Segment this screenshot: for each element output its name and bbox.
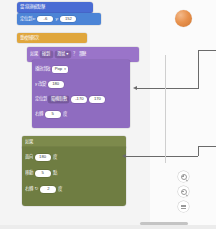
callout-line-lower-horizontal [126,156,198,157]
random-max-input[interactable]: 170 [89,96,105,103]
block-turn-right-second[interactable]: 右轉 ↻ 2 度 [22,185,126,194]
point-direction-label: 面向 [25,155,33,159]
hat-label: 當 綠旗 被點擊 [20,5,45,9]
turn-right-label: 右轉 [35,112,43,116]
zoom-in-icon [181,174,187,180]
callout-line-lower-top [198,146,216,147]
block-sound-play[interactable]: 播放音效 Pop ▾ [32,65,130,74]
callout-arrow-upper [133,86,137,90]
chevron-down-icon: ▾ [64,68,66,71]
zoom-out-icon [181,189,187,195]
block-stack-motion-second[interactable]: 面向 180 度 移動 5 點 右轉 ↻ 2 度 [22,147,126,206]
change-y-label: y 改變 [35,82,46,86]
callout-arrow-lower [122,154,126,158]
block-move-steps[interactable]: 移動 5 點 [22,169,126,178]
turn-right2-suffix: 度 [58,187,62,191]
goto-label: 定位到 x: [20,17,35,21]
green-if-label: 如果 [25,140,33,144]
goto-x-input[interactable]: -6 [37,16,53,23]
goto-random-label: 定位到 [35,97,46,101]
block-goto-random[interactable]: 定位到 隨機取數 -170 170 [32,95,130,104]
zoom-out-button[interactable] [178,186,189,197]
editor-root: 當 綠旗 被點擊 定位到 x: -6 y: 152 重複無限次 如果 碰到 滑鼠… [0,0,216,229]
repeat-label-text: 重複無限次 [20,36,39,40]
if-question-label: ？ [73,52,77,56]
turn-right-suffix: 度 [63,112,67,116]
block-motion-goto-xy[interactable]: 定位到 x: -6 y: 152 [17,13,101,25]
zoom-reset-button[interactable] [178,201,189,212]
right-panel-divider [165,55,166,163]
bottom-status-bar [0,225,216,229]
if-operand-left[interactable]: 碰到 [40,51,53,58]
move-steps-input[interactable]: 5 [35,170,51,177]
random-min-input[interactable]: -170 [71,96,87,103]
block-point-direction[interactable]: 面向 180 度 [22,153,126,162]
block-stack-looks-sound[interactable]: 播放音效 Pop ▾ y 改變 180 定位到 隨機取數 -170 170 右轉… [32,60,130,128]
goto-y-label: y: [55,17,58,21]
turn-right2-input[interactable]: 2 [40,186,56,193]
turn-right2-label: 右轉 [25,187,33,191]
sound-name-value: Pop [55,67,62,71]
if-then-label: 那麼 [79,52,87,56]
zoom-in-button[interactable] [178,171,189,182]
if-label: 如果 [30,52,38,56]
move-steps-label: 移動 [25,171,33,175]
block-turn-right[interactable]: 右轉 5 度 [32,110,130,119]
change-y-input[interactable]: 180 [48,81,64,88]
block-event-when-flag-clicked[interactable]: 當 綠旗 被點擊 [17,2,93,13]
callout-line-lower-vertical [198,146,199,156]
point-direction-input[interactable]: 180 [35,154,51,161]
point-direction-suffix: 度 [53,155,57,159]
block-change-y[interactable]: y 改變 180 [32,80,130,89]
sprite-ball-thumbnail[interactable] [175,10,192,27]
callout-line-upper-top [198,50,216,51]
block-control-repeat-forever[interactable]: 重複無限次 [17,33,87,43]
callout-line-upper-horizontal [137,88,199,89]
turn-right-input[interactable]: 5 [45,111,61,118]
callout-line-upper-vertical [198,50,199,88]
if-target-dropdown[interactable]: 滑鼠 ▾ [55,51,71,58]
rotate-right-icon: ↻ [35,187,39,192]
sound-play-label: 播放音效 [35,67,50,71]
goto-y-input[interactable]: 152 [60,16,76,23]
random-operator-label[interactable]: 隨機取數 [48,96,69,103]
zoom-reset-icon [181,204,187,210]
move-steps-suffix: 點 [53,171,57,175]
sound-name-dropdown[interactable]: Pop ▾ [52,66,68,73]
